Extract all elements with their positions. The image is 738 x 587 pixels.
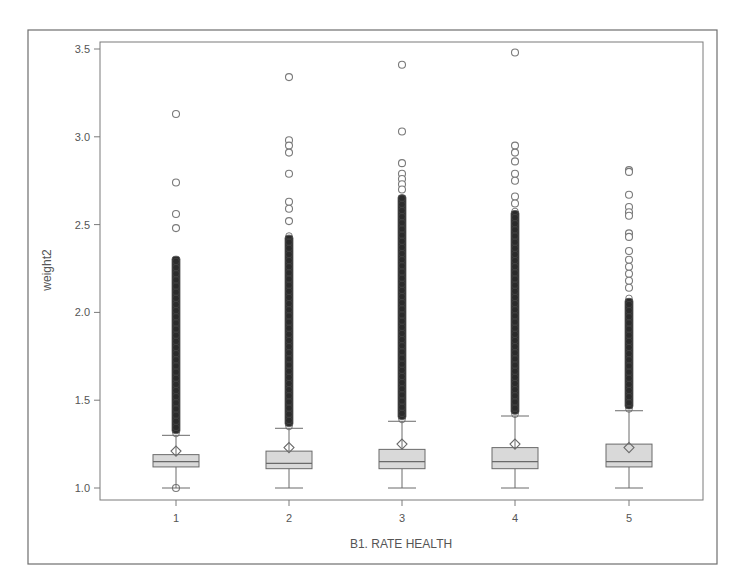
- outlier-marker: [173, 110, 180, 117]
- x-axis: 12345: [173, 500, 632, 524]
- box-group-1: [153, 110, 199, 491]
- x-tick-label: 2: [286, 512, 292, 524]
- box-group-5: [606, 167, 652, 488]
- outlier-marker: [512, 170, 519, 177]
- y-tick-label: 3.0: [75, 131, 90, 143]
- box-series: [153, 49, 652, 491]
- y-tick-label: 2.5: [75, 219, 90, 231]
- y-axis-label: weight2: [40, 249, 54, 292]
- outlier-marker: [626, 212, 633, 219]
- outlier-marker: [626, 191, 633, 198]
- outlier-marker: [173, 225, 180, 232]
- outlier-marker: [626, 277, 633, 284]
- iqr-box: [606, 444, 652, 467]
- iqr-box: [492, 448, 538, 469]
- box-group-3: [379, 61, 425, 488]
- outlier-marker: [286, 74, 293, 81]
- outlier-marker: [286, 205, 293, 212]
- outlier-marker: [512, 158, 519, 165]
- outlier-marker: [286, 142, 293, 149]
- outlier-marker: [286, 170, 293, 177]
- x-tick-label: 1: [173, 512, 179, 524]
- x-axis-label: B1. RATE HEALTH: [350, 537, 452, 551]
- box-plot-chart: 1.01.52.02.53.03.5 12345 B1. RATE HEALTH…: [0, 0, 738, 587]
- outlier-marker: [286, 198, 293, 205]
- outlier-marker: [173, 179, 180, 186]
- outlier-marker: [626, 284, 633, 291]
- outlier-marker: [626, 247, 633, 254]
- y-tick-label: 1.5: [75, 394, 90, 406]
- iqr-box: [379, 449, 425, 468]
- outlier-marker: [512, 149, 519, 156]
- outlier-marker: [399, 186, 406, 193]
- outlier-marker: [286, 149, 293, 156]
- outlier-marker: [286, 218, 293, 225]
- outer-frame: [28, 30, 717, 564]
- outlier-marker: [399, 160, 406, 167]
- x-tick-label: 4: [512, 512, 518, 524]
- box-group-2: [266, 74, 312, 488]
- outlier-marker: [626, 168, 633, 175]
- outlier-marker: [399, 128, 406, 135]
- outlier-marker: [512, 49, 519, 56]
- outlier-marker: [512, 142, 519, 149]
- box-group-4: [492, 49, 538, 488]
- outlier-marker: [173, 211, 180, 218]
- outlier-marker: [626, 263, 633, 270]
- outlier-marker: [512, 177, 519, 184]
- outlier-marker: [512, 200, 519, 207]
- y-axis: 1.01.52.02.53.03.5: [75, 43, 100, 494]
- outlier-marker: [399, 61, 406, 68]
- outlier-marker: [626, 270, 633, 277]
- outlier-marker: [626, 256, 633, 263]
- y-tick-label: 3.5: [75, 43, 90, 55]
- x-tick-label: 3: [399, 512, 405, 524]
- y-tick-label: 1.0: [75, 482, 90, 494]
- outlier-marker: [626, 233, 633, 240]
- y-tick-label: 2.0: [75, 306, 90, 318]
- outlier-marker: [512, 193, 519, 200]
- x-tick-label: 5: [626, 512, 632, 524]
- iqr-box: [266, 451, 312, 469]
